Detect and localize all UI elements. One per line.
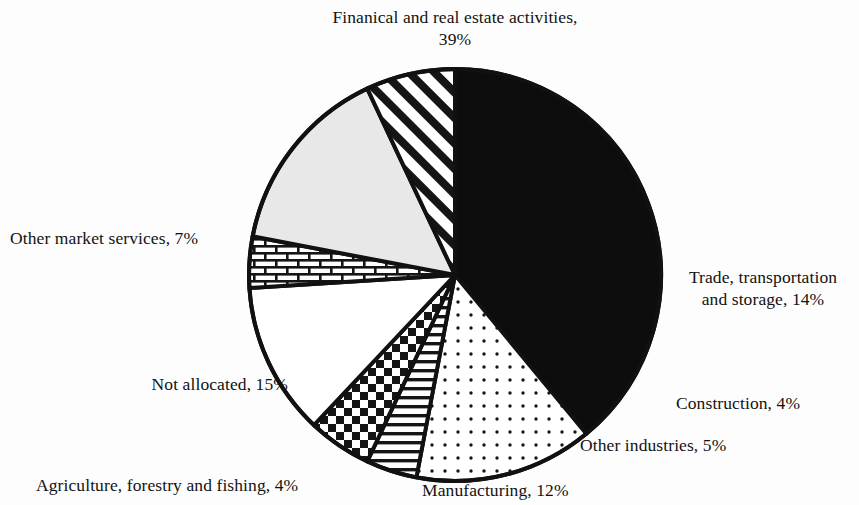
slice-label-other-market-services: Other market services, 7% [10, 227, 260, 249]
slice-label-construction: Construction, 4% [676, 392, 856, 414]
slice-label-other-industries: Other industries, 5% [580, 434, 810, 456]
slice-label-not-allocated: Not allocated, 15% [96, 373, 288, 395]
slice-label-trade: Trade, transportation and storage, 14% [668, 266, 858, 311]
pie-chart-figure: Finanical and real estate activities, 39… [0, 0, 859, 505]
slice-label-financial: Finanical and real estate activities, 39… [265, 6, 645, 51]
pie-slices-group [249, 69, 661, 481]
pie-chart-canvas [0, 0, 859, 505]
slice-label-agriculture: Agriculture, forestry and fishing, 4% [36, 474, 416, 496]
slice-label-manufacturing: Manufacturing, 12% [422, 479, 642, 501]
pie-chart-svg [0, 0, 859, 505]
